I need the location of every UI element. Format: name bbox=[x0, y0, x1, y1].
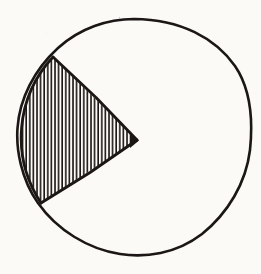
circle-sector-diagram: Circle with shaded sector bbox=[0, 0, 261, 274]
figure-canvas: Circle with shaded sector bbox=[0, 0, 261, 274]
